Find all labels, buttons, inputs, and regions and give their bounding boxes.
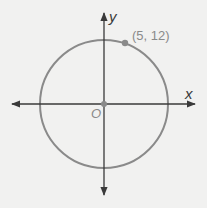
point-label: (5, 12)	[132, 28, 170, 43]
x-axis-label: x	[184, 85, 193, 102]
y-axis-label: y	[108, 8, 118, 25]
coordinate-plane: y x O (5, 12)	[0, 0, 207, 208]
origin-label: O	[91, 106, 101, 121]
circle-diagram: y x O (5, 12)	[0, 0, 207, 208]
origin-point	[101, 101, 107, 107]
point-5-12	[122, 40, 128, 46]
